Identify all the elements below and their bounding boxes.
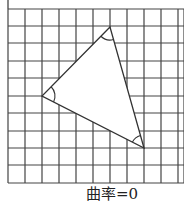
curvature-caption: 曲率=0	[86, 184, 166, 204]
flat-grid-triangle-diagram	[0, 0, 184, 204]
